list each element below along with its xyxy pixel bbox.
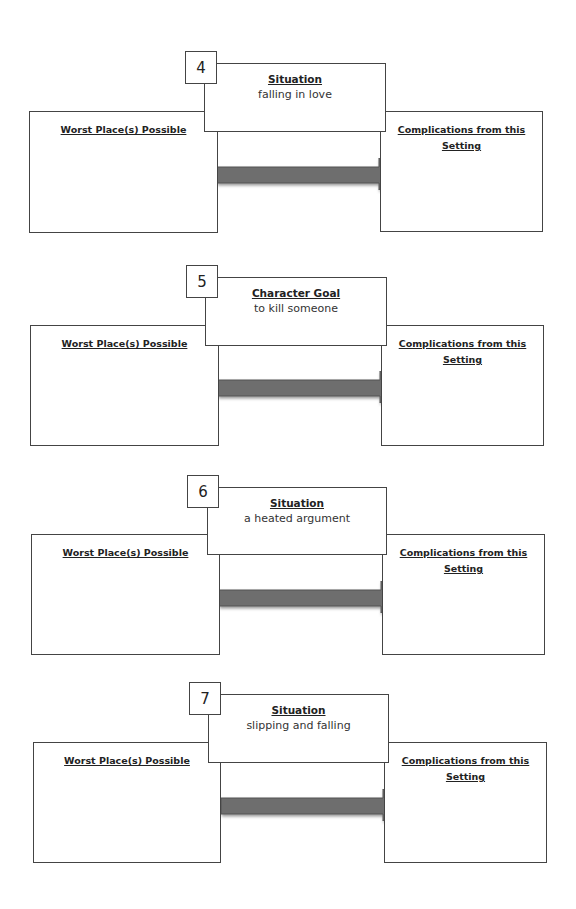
worst-place-box[interactable]: Worst Place(s) Possible <box>30 325 219 446</box>
block-number-badge: 4 <box>185 51 217 84</box>
prompt-type: Situation <box>209 704 388 716</box>
block-number: 4 <box>196 59 206 77</box>
worst-place-label: Worst Place(s) Possible <box>30 122 217 138</box>
prompt-box: Situation falling in love <box>204 63 386 132</box>
worst-place-box[interactable]: Worst Place(s) Possible <box>29 111 218 233</box>
block-number: 7 <box>200 690 210 708</box>
block-number-badge: 6 <box>187 475 219 508</box>
prompt-type: Character Goal <box>206 287 386 299</box>
complications-label: Complications from this Setting <box>382 336 543 368</box>
block-number-badge: 7 <box>189 682 221 715</box>
complications-label: Complications from this Setting <box>385 753 546 785</box>
block-number-badge: 5 <box>186 265 218 298</box>
worst-place-label: Worst Place(s) Possible <box>32 545 219 561</box>
arrow-right-icon <box>218 370 398 410</box>
complications-label: Complications from this Setting <box>383 545 544 577</box>
block-number: 5 <box>197 273 207 291</box>
worst-place-label: Worst Place(s) Possible <box>34 753 220 769</box>
prompt-type: Situation <box>208 497 386 509</box>
prompt-value: falling in love <box>205 88 385 101</box>
block-number: 6 <box>198 483 208 501</box>
arrow-right-icon <box>219 580 399 620</box>
worksheet-block-5: 5 Character Goal to kill someone Worst P… <box>0 265 576 465</box>
complications-box[interactable]: Complications from this Setting <box>382 534 545 655</box>
worksheet-block-7: 7 Situation slipping and falling Worst P… <box>0 682 576 882</box>
worst-place-label: Worst Place(s) Possible <box>31 336 218 352</box>
prompt-box: Character Goal to kill someone <box>205 277 387 346</box>
prompt-value: a heated argument <box>208 512 386 525</box>
prompt-value: to kill someone <box>206 302 386 315</box>
arrow-right-icon <box>217 157 397 197</box>
worksheet-block-6: 6 Situation a heated argument Worst Plac… <box>0 475 576 675</box>
worst-place-box[interactable]: Worst Place(s) Possible <box>31 534 220 655</box>
worst-place-box[interactable]: Worst Place(s) Possible <box>33 742 221 863</box>
complications-box[interactable]: Complications from this Setting <box>381 325 544 446</box>
arrow-right-icon <box>221 788 401 828</box>
complications-box[interactable]: Complications from this Setting <box>384 742 547 863</box>
worksheet-block-4: 4 Situation falling in love Worst Place(… <box>0 51 576 251</box>
prompt-box: Situation a heated argument <box>207 487 387 555</box>
prompt-value: slipping and falling <box>209 719 388 732</box>
complications-label: Complications from this Setting <box>381 122 542 154</box>
prompt-box: Situation slipping and falling <box>208 694 389 763</box>
complications-box[interactable]: Complications from this Setting <box>380 111 543 232</box>
prompt-type: Situation <box>205 73 385 85</box>
